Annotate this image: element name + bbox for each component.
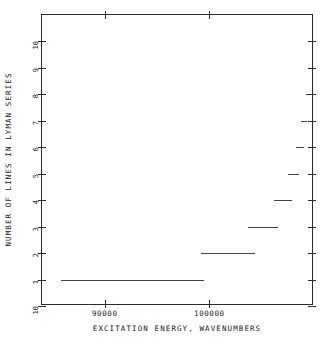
y-axis-tick-label: 5 <box>33 174 40 178</box>
y-axis-tick-right <box>308 227 316 228</box>
y-axis-tick-right <box>308 306 316 307</box>
y-axis-title: NUMBER OF LINES IN LYMAN SERIES <box>2 14 14 305</box>
y-axis-tick-right <box>308 200 316 201</box>
y-axis-tick-label: 7 <box>33 121 40 125</box>
x-axis-tick-top <box>105 11 106 19</box>
y-axis-tick-right <box>308 174 316 175</box>
y-axis-tick-right <box>308 121 316 122</box>
y-axis-tick-label: 2 <box>33 253 40 257</box>
y-axis-tick-right <box>308 253 316 254</box>
data-segment <box>296 147 303 148</box>
y-axis-tick-label: 9 <box>33 68 40 72</box>
y-axis-tick-right <box>308 68 316 69</box>
y-axis-tick-right <box>308 147 316 148</box>
chart-figure: NUMBER OF LINES IN LYMAN SERIES 10987654… <box>0 0 328 344</box>
plot-frame: 109876543211090000100000 <box>41 14 313 305</box>
data-segment <box>61 280 204 281</box>
data-segment <box>274 200 292 201</box>
x-axis-tick <box>105 300 106 308</box>
y-axis-tick-label: 1 <box>33 280 40 284</box>
x-axis-tick-label: 100000 <box>194 310 225 318</box>
y-axis-tick-label: 3 <box>33 227 40 231</box>
y-axis-tick-label: 4 <box>33 200 40 204</box>
data-segment <box>248 227 278 228</box>
x-axis-tick-label: 90000 <box>92 310 118 318</box>
y-axis-tick-label: 8 <box>33 94 40 98</box>
y-axis-tick-right <box>308 280 316 281</box>
y-axis-tick-label: 6 <box>33 147 40 151</box>
y-axis-tick-right <box>308 41 316 42</box>
y-axis-tick-label: 10 <box>33 41 40 49</box>
data-segment <box>301 121 306 122</box>
y-axis-title-text: NUMBER OF LINES IN LYMAN SERIES <box>4 72 13 246</box>
data-segment <box>201 253 255 254</box>
plot-area <box>42 15 312 304</box>
y-axis-tick-right <box>308 94 316 95</box>
data-segment <box>288 174 300 175</box>
y-axis-tick-label: 10 <box>33 306 40 314</box>
x-axis-tick-top <box>209 11 210 19</box>
x-axis-title: EXCITATION ENERGY, WAVENUMBERS <box>41 324 313 333</box>
x-axis-tick <box>209 300 210 308</box>
